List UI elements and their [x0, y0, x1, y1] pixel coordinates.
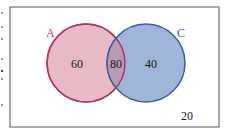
outside-value: 20: [181, 109, 193, 123]
venn-diagram: A C 60 80 40 20: [0, 0, 227, 133]
set-a-label: A: [46, 26, 55, 40]
c-only-value: 40: [145, 57, 157, 71]
intersection-value: 80: [110, 57, 122, 71]
edge-marks: [1, 8, 4, 118]
set-c-label: C: [177, 26, 185, 40]
a-only-value: 60: [71, 57, 83, 71]
